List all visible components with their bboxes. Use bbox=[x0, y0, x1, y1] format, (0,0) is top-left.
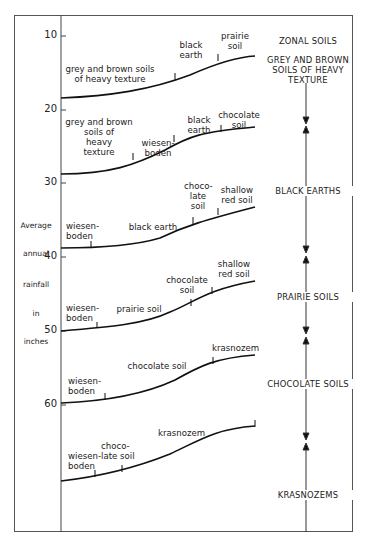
c3-wies-line-2: boden bbox=[66, 231, 106, 241]
c3-choc-line-1: choco- bbox=[184, 181, 212, 191]
c4-label-chocolate-soil: chocolate soil bbox=[166, 275, 208, 295]
c3-label-wiesenboden: wiesen- boden bbox=[66, 221, 106, 241]
c2-grey-line-2: soils of bbox=[62, 127, 136, 137]
c6-wies-line-2: boden bbox=[68, 461, 108, 471]
c4-wies-line-2: boden bbox=[66, 313, 106, 323]
c2-grey-line-4: texture bbox=[62, 147, 136, 157]
c5-label-krasnozem: krasnozem bbox=[212, 343, 258, 353]
c3-choc-line-3: soil bbox=[184, 201, 212, 211]
c1-prairie-line-2: soil bbox=[219, 41, 251, 51]
c3-label-shallow-red-soil: shallow red soil bbox=[219, 185, 255, 205]
zone-grey-brown-line-1: GREY AND BROWN bbox=[262, 55, 354, 65]
c4-red-line-1: shallow bbox=[216, 259, 252, 269]
c2-black-line-1: black bbox=[185, 115, 213, 125]
c3-wies-line-1: wiesen- bbox=[66, 221, 106, 231]
zone-krasnozems: KRASNOZEMS bbox=[262, 490, 354, 500]
y-tick-60: 60 bbox=[35, 398, 57, 409]
c1-label-black-earth: black earth bbox=[177, 40, 205, 60]
c5-label-chocolate-soil: chocolate soil bbox=[126, 361, 188, 371]
c4-red-line-2: red soil bbox=[216, 269, 252, 279]
zone-prairie-soils: PRAIRIE SOILS bbox=[262, 292, 354, 302]
c1-black-line-1: black bbox=[177, 40, 205, 50]
c1-label-prairie-soil: prairie soil bbox=[219, 31, 251, 51]
c6-label-chocolate-soil: choco- late soil bbox=[101, 441, 141, 461]
c4-label-prairie-soil: prairie soil bbox=[114, 304, 164, 314]
c2-black-line-2: earth bbox=[185, 125, 213, 135]
c3-red-line-2: red soil bbox=[219, 195, 255, 205]
zone-arrows bbox=[303, 83, 309, 532]
c3-choc-line-2: late bbox=[184, 191, 212, 201]
outer-frame bbox=[15, 16, 353, 532]
c4-wies-line-1: wiesen- bbox=[66, 303, 106, 313]
c2-label-black-earth: black earth bbox=[185, 115, 213, 135]
zonal-soils-header: ZONAL SOILS bbox=[266, 36, 350, 46]
zone-grey-brown-line-2: SOILS OF HEAVY bbox=[262, 65, 354, 75]
c1-grey-line-2: of heavy texture bbox=[62, 74, 158, 84]
c2-choc-line-2: soil bbox=[218, 120, 260, 130]
c2-grey-line-1: grey and brown bbox=[62, 117, 136, 127]
c5-wies-line-1: wiesen- bbox=[68, 376, 108, 386]
c1-grey-line-1: grey and brown soils bbox=[62, 64, 158, 74]
c2-label-wiesenboden: wiesen- boden bbox=[140, 138, 176, 158]
c6-choc-line-1: choco- bbox=[101, 441, 141, 451]
c5-label-wiesenboden: wiesen- boden bbox=[68, 376, 108, 396]
zone-grey-brown-line-3: TEXTURE bbox=[262, 75, 354, 85]
y-label-line-2: annual bbox=[14, 249, 58, 258]
y-tick-20: 20 bbox=[35, 103, 57, 114]
y-tick-30: 30 bbox=[35, 176, 57, 187]
zone-chocolate-soils: CHOCOLATE SOILS bbox=[262, 379, 354, 389]
c1-prairie-line-1: prairie bbox=[219, 31, 251, 41]
y-tick-10: 10 bbox=[35, 29, 57, 40]
c4-label-wiesenboden: wiesen- boden bbox=[66, 303, 106, 323]
c4-choc-line-2: soil bbox=[166, 285, 208, 295]
c4-choc-line-1: chocolate bbox=[166, 275, 208, 285]
c2-grey-line-3: heavy bbox=[62, 137, 136, 147]
c2-wies-line-2: boden bbox=[140, 148, 176, 158]
c5-wies-line-2: boden bbox=[68, 386, 108, 396]
y-label-line-5: inches bbox=[14, 337, 58, 346]
c2-wies-line-1: wiesen- bbox=[140, 138, 176, 148]
c3-label-black-earth: black earth bbox=[126, 222, 180, 232]
c2-choc-line-1: chocolate bbox=[218, 110, 260, 120]
c1-black-line-2: earth bbox=[177, 50, 205, 60]
c3-label-chocolate-soil: choco- late soil bbox=[184, 181, 212, 211]
c2-label-grey-brown: grey and brown soils of heavy texture bbox=[62, 117, 136, 157]
y-label-line-1: Average bbox=[14, 221, 58, 230]
c4-label-shallow-red-soil: shallow red soil bbox=[216, 259, 252, 279]
c6-choc-line-2: late soil bbox=[101, 451, 141, 461]
y-tick-50: 50 bbox=[35, 324, 57, 335]
y-label-line-3: rainfall bbox=[14, 280, 58, 289]
c1-label-grey-brown: grey and brown soils of heavy texture bbox=[62, 64, 158, 84]
zone-black-earths: BLACK EARTHS bbox=[262, 186, 354, 196]
y-label-line-4: in bbox=[14, 309, 58, 318]
c6-label-krasnozem: krasnozem bbox=[158, 428, 204, 438]
c2-label-chocolate-soil: chocolate soil bbox=[218, 110, 260, 130]
c3-red-line-1: shallow bbox=[219, 185, 255, 195]
